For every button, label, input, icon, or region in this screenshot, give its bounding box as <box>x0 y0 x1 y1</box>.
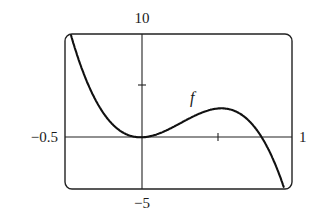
chart-canvas: 10 −5 −0.5 1 f <box>0 0 319 219</box>
curve-label-f: f <box>190 89 197 107</box>
plot-frame <box>65 34 292 189</box>
function-curve-f <box>71 35 284 186</box>
x-max-label: 1 <box>299 129 307 145</box>
y-max-label: 10 <box>135 10 150 26</box>
x-min-label: −0.5 <box>31 129 58 145</box>
y-min-label: −5 <box>134 195 150 211</box>
